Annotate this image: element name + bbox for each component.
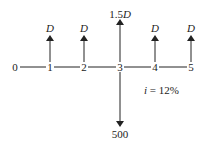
inflow-label-1: D (45, 22, 54, 34)
period-label-3: 3 (117, 61, 123, 73)
inflow-label-5: D (186, 22, 195, 34)
cash-flow-diagram: 0 1 2 3 4 5 D D 1.5D D D 500 i = 12% (0, 0, 206, 147)
interest-rate-label: i = 12% (144, 84, 179, 96)
inflow-label-4: D (150, 22, 159, 34)
period-label-2: 2 (81, 61, 87, 73)
period-label-4: 4 (152, 61, 158, 73)
inflow-label-2: D (79, 22, 88, 34)
period-label-1: 1 (47, 61, 53, 73)
period-label-5: 5 (188, 61, 194, 73)
outflow-label-3: 500 (112, 128, 129, 140)
inflow-label-3: 1.5D (109, 8, 131, 20)
period-label-0: 0 (12, 61, 18, 73)
